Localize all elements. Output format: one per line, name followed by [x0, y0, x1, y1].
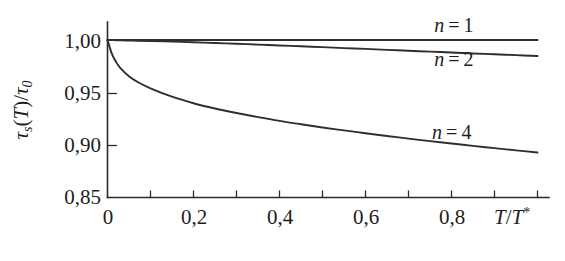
- series-label-n-4-var: n: [432, 121, 442, 143]
- chart-plot: 1,00 0,95 0,90 0,85 0 0,2 0,4 0,6 0,8 T/…: [0, 0, 565, 261]
- series-label-n-1-op: =: [448, 14, 459, 36]
- series-annotations: n=1 n=2 n=4: [432, 14, 473, 144]
- series-label-n-4: n=4: [432, 121, 471, 143]
- x-tick-label-02: 0,2: [181, 205, 207, 229]
- series-label-n-4-value: 4: [461, 121, 471, 143]
- series-label-n-2-op: =: [448, 48, 459, 70]
- y-axis-title-paren-close: ): [9, 101, 33, 108]
- y-axis-title-sub2: 0: [20, 80, 35, 87]
- y-tick-label-090: 0,90: [64, 133, 101, 157]
- series-label-n-2: n=2: [434, 48, 473, 70]
- y-tick-label-095: 0,95: [64, 81, 101, 105]
- y-axis-title-paren-open: (: [9, 120, 33, 127]
- x-tick-label-0: 0: [103, 205, 114, 229]
- x-tick-label-08: 0,8: [439, 205, 465, 229]
- y-tick-label-085: 0,85: [64, 185, 101, 209]
- svg-text:τs(T)/τ0: τs(T)/τ0: [9, 80, 35, 139]
- x-tick-label-04: 0,4: [267, 205, 294, 229]
- series-label-n-1-value: 1: [464, 14, 474, 36]
- series-label-n-2-var: n: [434, 48, 444, 70]
- series-label-n-1: n=1: [434, 14, 473, 36]
- x-tick-marks: [151, 191, 538, 198]
- figure-container: 1,00 0,95 0,90 0,85 0 0,2 0,4 0,6 0,8 T/…: [0, 0, 565, 261]
- x-tick-label-06: 0,6: [353, 205, 379, 229]
- y-tick-label-100: 1,00: [64, 29, 101, 53]
- y-axis-title: τs(T)/τ0: [9, 80, 35, 139]
- svg-text:T/T*: T/T*: [494, 205, 530, 229]
- x-axis-title-sup: *: [523, 205, 530, 220]
- series-label-n-4-op: =: [446, 121, 457, 143]
- y-tick-marks: [108, 94, 118, 146]
- x-axis-title: T/T*: [494, 205, 530, 229]
- series-label-n-2-value: 2: [464, 48, 474, 70]
- series-label-n-1-var: n: [434, 14, 444, 36]
